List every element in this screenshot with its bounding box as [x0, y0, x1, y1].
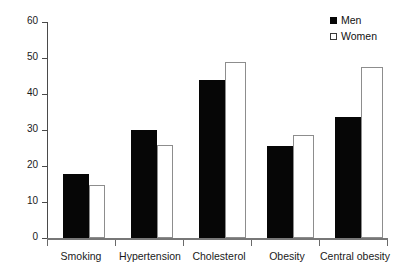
y-tick-40: 40	[42, 94, 47, 95]
filled-square-icon	[330, 17, 337, 24]
bar-women-obesity	[293, 135, 314, 238]
y-tick-50: 50	[42, 58, 47, 59]
x-tick-0	[47, 240, 48, 246]
x-tick-2	[183, 240, 184, 246]
x-label-obesity: Obesity	[269, 250, 305, 262]
bar-men-hypertension	[131, 130, 157, 238]
y-tick-10: 10	[42, 202, 47, 203]
y-tick-label-50: 50	[27, 51, 38, 62]
x-label-central-obesity: Central obesity	[320, 250, 390, 262]
y-tick-0: 0	[42, 238, 47, 239]
bar-men-cholesterol	[199, 80, 225, 238]
y-tick-label-40: 40	[27, 87, 38, 98]
y-axis-line	[47, 22, 48, 239]
bar-women-cholesterol	[225, 62, 246, 238]
bar-women-smoking	[89, 185, 105, 238]
legend-label-men: Men	[341, 14, 361, 26]
x-label-smoking: Smoking	[61, 250, 102, 262]
open-square-icon	[330, 33, 337, 40]
x-label-cholesterol: Cholesterol	[192, 250, 245, 262]
y-tick-label-0: 0	[32, 231, 38, 242]
plot-area: 60 50 40 30 20 10 0 Smoking Hypertension…	[47, 22, 387, 238]
y-tick-label-20: 20	[27, 159, 38, 170]
chart-legend: Men Women	[330, 12, 377, 44]
bar-men-central-obesity	[335, 117, 361, 238]
x-tick-4	[319, 240, 320, 246]
y-tick-label-60: 60	[27, 15, 38, 26]
bar-women-hypertension	[157, 145, 173, 238]
y-tick-60: 60	[42, 22, 47, 23]
legend-entry-men: Men	[330, 12, 377, 28]
prevalence-bar-chart: Prevalence (%) 60 50 40 30 20 10 0	[0, 0, 399, 270]
y-tick-20: 20	[42, 166, 47, 167]
x-axis-line	[47, 238, 388, 240]
y-tick-label-10: 10	[27, 195, 38, 206]
x-tick-3	[251, 240, 252, 246]
bar-men-smoking	[63, 174, 89, 238]
y-tick-label-30: 30	[27, 123, 38, 134]
x-tick-5	[387, 240, 388, 246]
legend-entry-women: Women	[330, 28, 377, 44]
x-tick-1	[115, 240, 116, 246]
bar-women-central-obesity	[361, 67, 383, 238]
legend-label-women: Women	[341, 30, 377, 42]
x-label-hypertension: Hypertension	[119, 250, 181, 262]
bar-men-obesity	[267, 146, 293, 239]
y-tick-30: 30	[42, 130, 47, 131]
